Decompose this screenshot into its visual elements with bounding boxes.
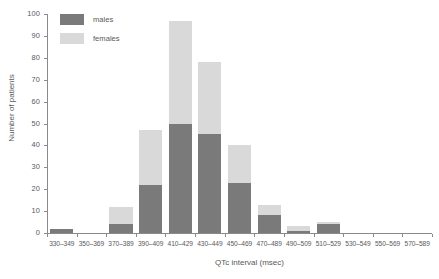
x-tick — [165, 234, 166, 237]
bar-segment-females — [317, 222, 340, 224]
bar-group — [346, 14, 369, 233]
bar-segment-males — [169, 124, 192, 234]
y-tick-label: 0 — [14, 229, 40, 236]
qtc-interval-histogram: males females Number of patients 0102030… — [0, 0, 439, 279]
bar-group — [80, 14, 103, 233]
y-tick-label: 60 — [14, 98, 40, 105]
x-tick-label: 550–569 — [373, 240, 403, 247]
x-tick-label: 530–549 — [343, 240, 373, 247]
bar-segment-males — [228, 183, 251, 233]
bar-group — [287, 14, 310, 233]
y-tick-label: 90 — [14, 32, 40, 39]
x-tick — [402, 234, 403, 237]
bar-group — [258, 14, 281, 233]
bar-segment-males — [258, 215, 281, 233]
x-tick — [136, 234, 137, 237]
y-tick-label: 70 — [14, 76, 40, 83]
x-tick-label: 510–529 — [314, 240, 344, 247]
bar-group — [50, 14, 73, 233]
bar-group — [109, 14, 132, 233]
bar-segment-females — [109, 207, 132, 225]
x-tick-label: 450–469 — [225, 240, 255, 247]
bar-segment-females — [228, 145, 251, 182]
bar-segment-females — [287, 226, 310, 230]
bar-segment-males — [317, 224, 340, 233]
x-tick-label: 370–389 — [106, 240, 136, 247]
y-tick-label: 100 — [14, 10, 40, 17]
bar-group — [198, 14, 221, 233]
bar-segment-females — [258, 205, 281, 216]
bar-group — [228, 14, 251, 233]
bar-segment-females — [169, 21, 192, 124]
y-tick-label: 80 — [14, 54, 40, 61]
y-tick-label: 50 — [14, 120, 40, 127]
x-tick — [225, 234, 226, 237]
x-tick — [195, 234, 196, 237]
bar-group — [139, 14, 162, 233]
x-tick-label: 470–489 — [254, 240, 284, 247]
x-tick-label: 330–349 — [47, 240, 77, 247]
bar-segment-males — [50, 229, 73, 233]
x-tick — [373, 234, 374, 237]
bar-segment-males — [198, 134, 221, 233]
x-tick — [343, 234, 344, 237]
y-tick-label: 30 — [14, 163, 40, 170]
x-axis-title: QTc interval (msec) — [0, 259, 439, 267]
bar-segment-males — [139, 185, 162, 233]
bar-segment-females — [139, 130, 162, 185]
x-tick — [284, 234, 285, 237]
x-tick — [254, 234, 255, 237]
x-tick-label: 350–369 — [77, 240, 107, 247]
x-tick — [77, 234, 78, 237]
x-tick-label: 570–589 — [402, 240, 432, 247]
bar-segment-females — [198, 62, 221, 134]
bar-segment-males — [287, 231, 310, 233]
y-tick-label: 10 — [14, 207, 40, 214]
x-tick-label: 430–449 — [195, 240, 225, 247]
x-tick — [432, 234, 433, 237]
x-tick — [314, 234, 315, 237]
y-tick-label: 20 — [14, 185, 40, 192]
bar-group — [406, 14, 429, 233]
x-tick-label: 490–509 — [284, 240, 314, 247]
plot-area — [47, 14, 432, 233]
x-tick — [47, 234, 48, 237]
x-axis-line — [47, 233, 432, 234]
bar-group — [169, 14, 192, 233]
bar-segment-males — [109, 224, 132, 233]
y-tick-label: 40 — [14, 141, 40, 148]
bar-group — [317, 14, 340, 233]
x-axis-title-text: QTc interval (msec) — [155, 258, 284, 267]
x-tick-label: 410–429 — [165, 240, 195, 247]
x-tick — [106, 234, 107, 237]
bar-group — [376, 14, 399, 233]
x-tick-label: 390–409 — [136, 240, 166, 247]
